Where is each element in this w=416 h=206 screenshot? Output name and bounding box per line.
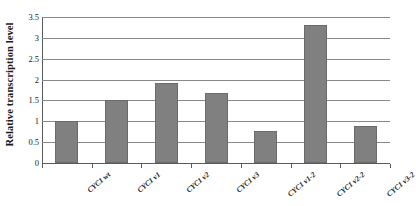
y-axis-title: Relative transcription level xyxy=(4,22,15,146)
y-axis-tick-label: 2 xyxy=(14,75,39,84)
x-axis-category-label: CYC1 v3 xyxy=(234,170,261,194)
gridline xyxy=(42,80,390,81)
bar xyxy=(254,131,277,163)
bar xyxy=(55,121,78,163)
bar xyxy=(304,25,327,163)
x-axis-category-label: CYC1 v2-2 xyxy=(335,170,366,198)
y-axis-tick-label: 0.5 xyxy=(14,138,39,147)
y-axis-tick-label: 1.5 xyxy=(14,96,39,105)
y-axis-tick-label: 3 xyxy=(14,34,39,43)
bar xyxy=(354,126,377,163)
x-axis-tick xyxy=(241,164,242,168)
gridline xyxy=(42,17,390,18)
x-axis-tick xyxy=(390,164,391,168)
y-axis-tick-labels: 00.511.522.533.5 xyxy=(14,0,39,206)
bar xyxy=(105,100,128,163)
y-axis-tick-label: 1 xyxy=(14,117,39,126)
gridline xyxy=(42,38,390,39)
x-axis-category-label: CYC1 v1-2 xyxy=(286,170,317,198)
x-axis-tick xyxy=(141,164,142,168)
bar xyxy=(205,93,228,163)
plot-area xyxy=(42,17,390,163)
x-axis-category-label: CYC1 v3-2 xyxy=(385,170,416,198)
x-axis-tick xyxy=(291,164,292,168)
x-axis-category-label: CYC1 wt xyxy=(85,170,112,194)
x-axis-tick xyxy=(340,164,341,168)
x-axis-tick xyxy=(42,164,43,168)
x-axis-category-label: CYC1 v2 xyxy=(185,170,212,194)
x-axis-category-label: CYC1 v1 xyxy=(135,170,162,194)
y-axis-tick-label: 3.5 xyxy=(14,13,39,22)
x-axis-tick xyxy=(191,164,192,168)
x-axis-baseline xyxy=(42,163,390,164)
x-axis-tick xyxy=(92,164,93,168)
y-axis-tick-label: 2.5 xyxy=(14,54,39,63)
bar xyxy=(155,83,178,164)
y-axis-tick-label: 0 xyxy=(14,159,39,168)
gridline xyxy=(42,59,390,60)
